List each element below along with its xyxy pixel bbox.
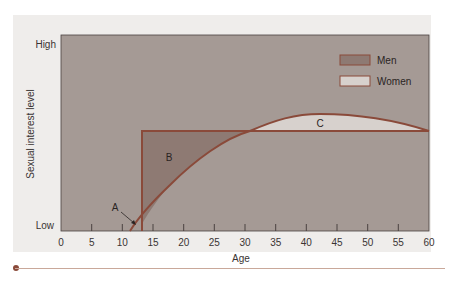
tick-label: 20 <box>178 237 190 248</box>
caption-rule <box>15 268 445 269</box>
tick-label: 30 <box>239 237 251 248</box>
legend-label-men: Men <box>377 55 396 66</box>
tick-label: 50 <box>362 237 374 248</box>
legend-label-women: Women <box>377 76 411 87</box>
tick-label: 35 <box>270 237 282 248</box>
annotation-c: C <box>316 118 323 129</box>
tick-label: 45 <box>331 237 343 248</box>
x-axis-label: Age <box>232 253 250 264</box>
legend-swatch-men <box>340 55 370 65</box>
tick-label: 10 <box>117 237 129 248</box>
tick-label: 55 <box>393 237 405 248</box>
y-label-high: High <box>35 39 56 50</box>
legend-swatch-women <box>340 76 370 86</box>
tick-label: 5 <box>89 237 95 248</box>
tick-label: 25 <box>209 237 221 248</box>
x-axis-tick-labels: 0 5 10 15 20 25 30 35 40 45 50 55 60 <box>58 237 435 248</box>
y-label-low: Low <box>36 220 55 231</box>
tick-label: 60 <box>423 237 435 248</box>
tick-label: 40 <box>301 237 313 248</box>
tick-label: 15 <box>147 237 159 248</box>
tick-label: 0 <box>58 237 64 248</box>
chart: 0 5 10 15 20 25 30 35 40 45 50 55 60 Age… <box>0 0 457 290</box>
annotation-b: B <box>166 152 173 163</box>
y-axis-label: Sexual interest level <box>25 89 36 179</box>
annotation-a: A <box>112 202 119 213</box>
